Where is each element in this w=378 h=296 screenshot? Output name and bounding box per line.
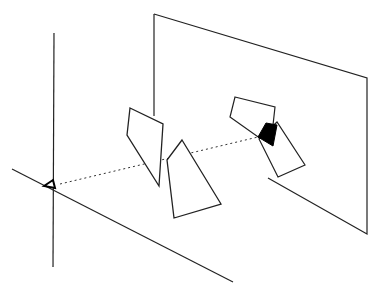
projection-diagram	[0, 0, 378, 296]
eye-triangle-icon	[44, 180, 55, 188]
vertical-axis	[53, 33, 54, 267]
near-polygon-left	[127, 108, 163, 186]
near-polygon-right	[167, 140, 221, 218]
diagram-canvas	[0, 0, 378, 296]
